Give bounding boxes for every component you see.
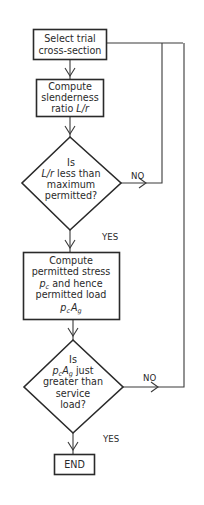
- decision2-pc: p: [52, 365, 59, 376]
- ratio-math: L/r: [76, 103, 90, 114]
- node-slenderness-line3: ratio L/r: [51, 103, 90, 114]
- node-slenderness: Compute slenderness ratio L/r: [37, 80, 104, 117]
- label-no1: NO: [131, 171, 144, 181]
- feedback-line-no1: [121, 43, 162, 183]
- decision1-line1: Is: [67, 157, 75, 168]
- node-select-line1: Select trial: [44, 33, 96, 44]
- feedback-line-no2: [123, 43, 184, 387]
- node-permitted-stress: Compute permitted stress pc and hence pe…: [24, 253, 120, 320]
- node-select-line2: cross-section: [39, 45, 102, 56]
- stress-pc: p: [38, 278, 45, 289]
- decision2-just: just: [73, 365, 94, 376]
- stress-load-pc: p: [59, 302, 66, 313]
- decision1-math: L/r: [42, 168, 56, 179]
- stress-load-A: A: [70, 302, 78, 313]
- decision2-line1: Is: [69, 354, 77, 365]
- node-slenderness-line1: Compute: [48, 81, 92, 92]
- label-yes2: YES: [102, 434, 119, 444]
- stress-load-pc-sub: c: [66, 307, 70, 315]
- node-decision-slenderness: Is L/r less than maximum permitted?: [22, 137, 121, 230]
- ratio-text: ratio: [51, 103, 76, 114]
- decision2-line3: greater than: [43, 376, 103, 387]
- node-decision-service-load: Is pcAg just greater than service load?: [24, 340, 123, 433]
- flowchart-canvas: Select trial cross-section Compute slend…: [0, 0, 204, 505]
- decision1-text: less than: [54, 168, 100, 179]
- decision1-line3: maximum: [47, 179, 95, 190]
- stress-hence: and hence: [49, 278, 102, 289]
- label-yes1: YES: [101, 232, 118, 242]
- end-label: END: [64, 459, 85, 470]
- decision1-line2: L/r less than: [42, 168, 101, 179]
- node-select-trial: Select trial cross-section: [34, 30, 107, 60]
- stress-line2: permitted stress: [32, 266, 111, 277]
- stress-line1: Compute: [49, 255, 93, 266]
- stress-load-A-sub: g: [78, 307, 82, 315]
- label-no2: NO: [143, 373, 156, 383]
- node-slenderness-line2: slenderness: [41, 92, 98, 103]
- node-end: END: [55, 455, 95, 475]
- stress-line4: permitted load: [36, 289, 107, 300]
- decision2-line5: load?: [60, 399, 86, 410]
- decision2-A: A: [61, 365, 69, 376]
- decision2-line4: service: [56, 388, 90, 399]
- decision1-line4: permitted?: [45, 190, 97, 201]
